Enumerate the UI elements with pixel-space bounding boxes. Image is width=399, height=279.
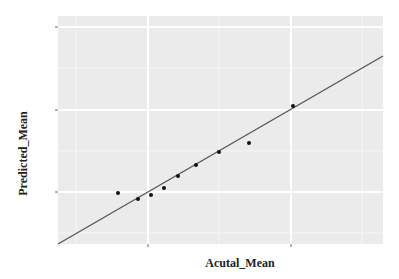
data-point: [136, 197, 140, 201]
plot-panel: [58, 16, 383, 244]
x-axis-label: Acutal_Mean: [170, 256, 310, 271]
scatter-plot: [0, 0, 399, 279]
data-point: [291, 104, 295, 108]
data-point: [194, 163, 198, 167]
data-point: [176, 174, 180, 178]
data-point: [149, 193, 153, 197]
data-point: [162, 186, 166, 190]
y-axis-label: Predicted_Mean: [16, 99, 31, 209]
data-point: [247, 141, 251, 145]
data-point: [116, 191, 120, 195]
data-point: [217, 150, 221, 154]
